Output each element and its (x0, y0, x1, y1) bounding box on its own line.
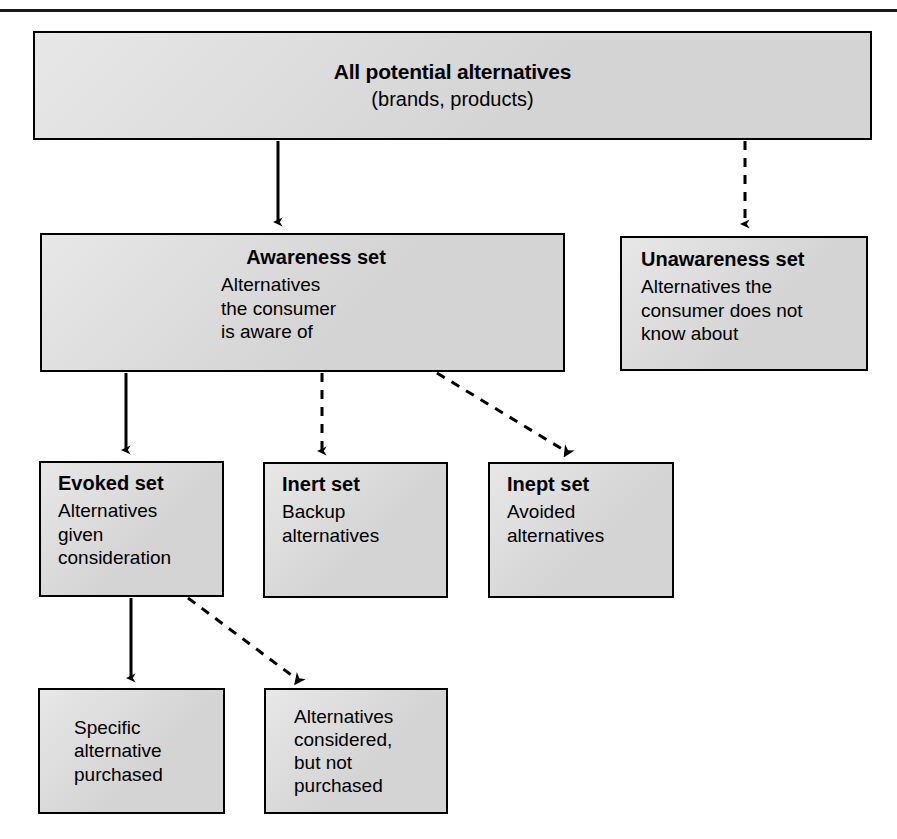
node-inert-set: Inert set Backupalternatives (263, 462, 448, 598)
node-body: Avoidedalternatives (507, 500, 672, 546)
page-top-rule (0, 9, 897, 12)
node-body: Alternativesconsidered,but notpurchased (294, 705, 393, 798)
node-title: Inert set (282, 473, 446, 495)
node-body: Alternatives theconsumer does notknow ab… (641, 275, 866, 345)
node-title: Evoked set (58, 472, 222, 494)
node-body: Alternativesgivenconsideration (58, 499, 222, 569)
node-body: Specificalternativepurchased (74, 716, 163, 786)
node-unawareness-set: Unawareness set Alternatives theconsumer… (620, 236, 868, 371)
node-awareness-set: Awareness set Alternativesthe consumeris… (40, 233, 565, 372)
node-title: Inept set (507, 473, 672, 495)
node-body: Backupalternatives (282, 500, 446, 546)
node-body: (brands, products) (371, 87, 533, 111)
node-evoked-set: Evoked set Alternativesgivenconsideratio… (39, 461, 224, 597)
node-considered-but-not-purchased: Alternativesconsidered,but notpurchased (264, 688, 448, 814)
connector-awareness-to-inept (437, 373, 567, 452)
diagram-canvas: All potential alternatives (brands, prod… (0, 0, 897, 839)
node-title: All potential alternatives (334, 60, 572, 84)
node-body: Alternativesthe consumeris aware of (221, 273, 563, 343)
node-title: Awareness set (221, 246, 411, 268)
node-all-potential-alternatives: All potential alternatives (brands, prod… (33, 31, 872, 140)
connector-evoked-to-notpurchased (188, 598, 298, 680)
node-inept-set: Inept set Avoidedalternatives (488, 462, 674, 598)
node-specific-alternative-purchased: Specificalternativepurchased (38, 688, 225, 814)
node-title: Unawareness set (641, 248, 866, 270)
